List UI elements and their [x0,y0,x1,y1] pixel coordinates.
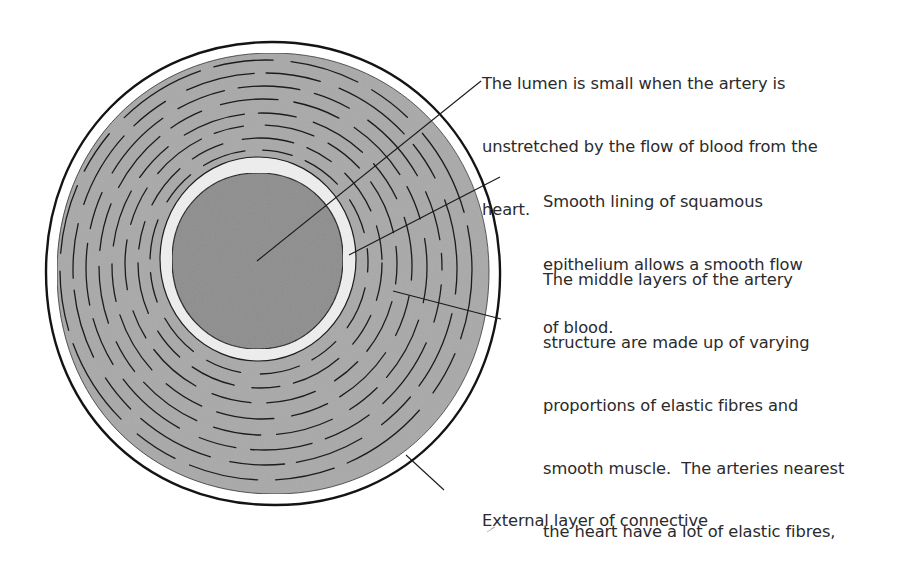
label-lining-line: Smooth lining of squamous [543,191,803,212]
label-lumen-line: The lumen is small when the artery is [482,73,818,94]
label-middle-line: structure are made up of varying [543,332,844,353]
label-external-layer: External layer of connective tissue, mai… [482,468,708,561]
label-middle-line: The middle layers of the artery [543,269,844,290]
leader-line-external [406,455,444,490]
label-external-line: External layer of connective [482,510,708,531]
label-middle-line: proportions of elastic fibres and [543,395,844,416]
